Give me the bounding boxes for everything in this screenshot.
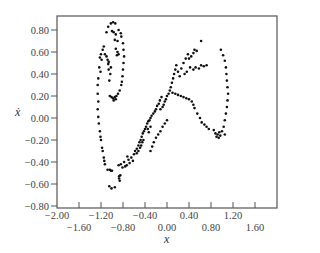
data-point — [114, 39, 117, 42]
x-tick-label: 0.80 — [202, 222, 220, 233]
y-tick-label: 0.20 — [31, 91, 49, 102]
data-point — [155, 137, 158, 140]
data-point — [159, 108, 162, 111]
data-point — [107, 68, 110, 71]
data-point — [224, 119, 227, 122]
data-point — [167, 93, 170, 96]
data-point — [99, 56, 102, 59]
data-point — [139, 146, 142, 149]
data-point — [115, 47, 118, 50]
data-point — [103, 45, 106, 48]
data-point — [140, 135, 143, 138]
data-point — [183, 73, 186, 76]
data-point — [97, 116, 100, 119]
data-point — [177, 94, 180, 97]
data-point — [121, 75, 124, 78]
data-point — [139, 139, 142, 142]
data-point — [221, 130, 224, 133]
data-point — [97, 77, 100, 80]
data-point — [166, 119, 169, 122]
x-axis-ticks: −2.00−1.60−1.20−0.80−0.400.000.400.801.2… — [45, 202, 264, 233]
data-point — [121, 166, 124, 169]
x-tick-label: −1.60 — [67, 222, 91, 233]
data-point — [205, 64, 208, 67]
data-point — [103, 160, 106, 163]
data-point — [156, 105, 159, 108]
data-point — [190, 55, 193, 58]
data-point — [104, 163, 107, 166]
data-point — [187, 53, 190, 56]
data-point — [122, 62, 125, 65]
data-point — [200, 121, 203, 124]
data-point — [178, 75, 181, 78]
data-point — [127, 159, 130, 162]
data-point — [150, 115, 153, 118]
data-point — [225, 66, 228, 69]
data-point — [191, 100, 194, 103]
x-tick-label: 0.40 — [180, 210, 198, 221]
data-point — [188, 57, 191, 60]
data-point — [116, 51, 119, 54]
data-point — [118, 89, 121, 92]
data-point — [184, 57, 187, 60]
data-point — [180, 95, 183, 98]
data-point — [148, 131, 151, 134]
data-point — [106, 58, 109, 61]
data-point — [192, 68, 195, 71]
data-point — [164, 122, 167, 125]
data-point — [103, 156, 106, 159]
data-point — [193, 107, 196, 110]
data-point — [143, 130, 146, 133]
plot-frame — [57, 16, 277, 208]
data-point — [108, 79, 111, 82]
data-point — [96, 84, 99, 87]
data-point — [180, 67, 183, 70]
data-point — [215, 135, 218, 138]
data-point — [136, 148, 139, 151]
data-point — [208, 128, 211, 131]
data-point — [218, 131, 221, 134]
data-point — [182, 62, 185, 65]
data-point — [158, 102, 161, 105]
scatter-points — [96, 21, 229, 190]
data-point — [159, 99, 162, 102]
data-point — [172, 77, 175, 80]
y-axis-ticks: 0.800.600.400.200.00−0.20−0.40−0.60−0.80 — [25, 25, 57, 212]
data-point — [146, 122, 149, 125]
data-point — [97, 100, 100, 103]
data-point — [134, 150, 137, 153]
data-point — [117, 164, 120, 167]
data-point — [114, 22, 117, 25]
data-point — [182, 96, 185, 99]
data-point — [224, 133, 227, 136]
data-point — [137, 144, 140, 147]
data-point — [169, 89, 172, 92]
data-point — [227, 93, 230, 96]
data-point — [203, 65, 206, 68]
data-point — [117, 53, 120, 56]
data-point — [126, 164, 129, 167]
data-point — [171, 82, 174, 85]
data-point — [224, 60, 227, 63]
data-point — [136, 152, 139, 155]
data-point — [226, 99, 229, 102]
data-point — [214, 132, 217, 135]
data-point — [133, 153, 136, 156]
data-point — [119, 174, 122, 177]
data-point — [149, 117, 152, 120]
data-point — [96, 108, 99, 111]
data-point — [220, 49, 223, 52]
data-point — [213, 129, 216, 132]
data-point — [140, 144, 143, 147]
data-point — [112, 21, 115, 24]
data-point — [115, 33, 118, 36]
data-point — [189, 66, 192, 69]
data-point — [186, 71, 189, 74]
y-tick-label: 0.40 — [31, 69, 49, 80]
data-point — [217, 137, 220, 140]
data-point — [123, 55, 126, 58]
data-point — [100, 58, 103, 61]
data-point — [138, 141, 141, 144]
data-point — [225, 73, 228, 76]
data-point — [108, 185, 111, 188]
